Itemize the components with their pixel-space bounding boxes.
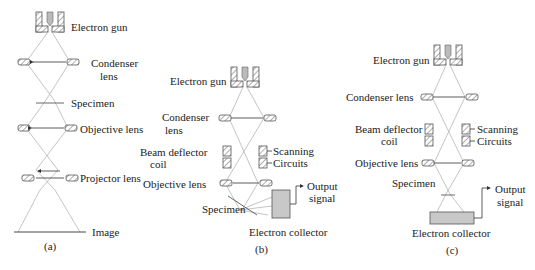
label-specimen-a: Specimen [71, 97, 114, 109]
label-objective-lens-c: Objective lens [355, 157, 418, 169]
label-image-a: Image [92, 226, 119, 238]
output-signal-arrow [290, 186, 303, 204]
electron-gun-icon [36, 12, 64, 32]
caption-c: (c) [446, 244, 458, 256]
label-condenser-a: Condenser [91, 57, 138, 69]
label-objective-lens-b: Objective lens [143, 178, 206, 190]
label-electron-gun-b: Electron gun [170, 75, 227, 87]
panel-a-tem [14, 12, 86, 232]
label-electron-collector-c: Electron collector [412, 227, 491, 239]
condenser-lens-icon [219, 115, 276, 121]
label-coil-b: coil [150, 158, 167, 170]
beam-deflector-coil-icon [223, 146, 272, 168]
label-projector-lens-a: Projector lens [80, 172, 141, 184]
caption-b: (b) [255, 243, 268, 255]
electron-collector-box [430, 212, 474, 224]
objective-lens-icon [220, 180, 272, 186]
electron-gun-icon [231, 67, 259, 87]
label-circuits-b: Circuits [273, 157, 308, 169]
label-output-b: Output [307, 180, 338, 192]
label-electron-gun-c: Electron gun [373, 54, 430, 66]
output-signal-arrow [474, 188, 490, 218]
label-scanning-b: Scanning [273, 145, 314, 157]
label-condenser-lens-a: lens [100, 70, 118, 82]
label-objective-lens-a: Objective lens [80, 123, 143, 135]
label-beam-deflector-b: Beam deflector [140, 146, 208, 158]
label-circuits-c: Circuits [477, 135, 512, 147]
label-scanning-c: Scanning [477, 123, 518, 135]
label-condenser-lens-b: lens [165, 124, 183, 136]
label-electron-gun-a: Electron gun [71, 21, 128, 33]
label-specimen-c: Specimen [392, 177, 435, 189]
label-condenser-lens-c: Condenser lens [346, 91, 414, 103]
panel-b-sem [219, 67, 303, 218]
electron-collector-box [272, 190, 290, 218]
electron-gun-icon [434, 45, 462, 65]
label-electron-collector-b: Electron collector [249, 226, 328, 238]
label-signal-c: signal [497, 196, 523, 208]
label-signal-b: signal [309, 192, 335, 204]
caption-a: (a) [44, 240, 56, 252]
label-output-c: Output [495, 183, 526, 195]
objective-lens-icon [422, 160, 474, 166]
label-specimen-b: Specimen [202, 203, 245, 215]
label-beam-deflector-c: Beam deflector [355, 123, 423, 135]
label-coil-c: coil [381, 135, 398, 147]
projector-lens-icon [22, 175, 78, 181]
label-condenser-b: Condenser [162, 111, 209, 123]
objective-lens-icon [18, 125, 77, 131]
condenser-lens-icon [18, 59, 79, 65]
beam-deflector-coil-icon [425, 124, 475, 146]
condenser-lens-icon [421, 94, 478, 100]
